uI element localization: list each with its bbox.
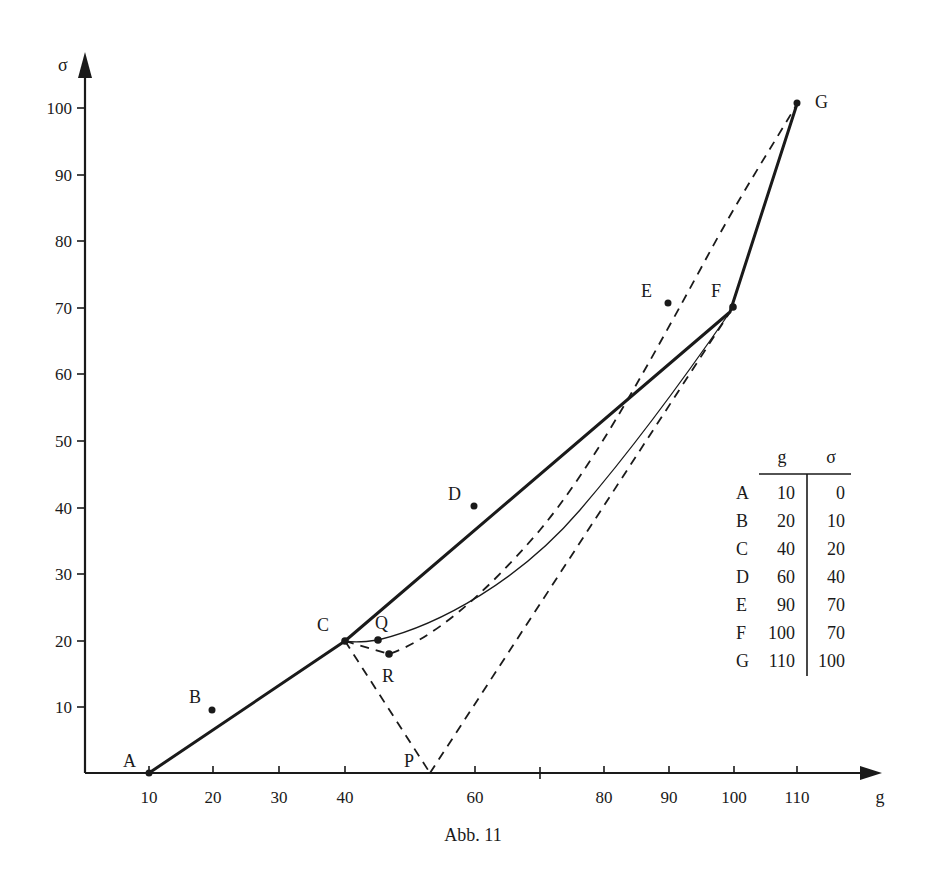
table-row-e: E 90 70 <box>736 595 845 615</box>
table-cell-sigma: 70 <box>827 623 845 643</box>
table-cell-name: F <box>736 623 746 643</box>
table-row-g: G 110 100 <box>736 651 845 671</box>
x-tick-label: 110 <box>785 788 810 807</box>
line-p-f <box>430 312 730 773</box>
x-axis-label: g <box>876 787 885 807</box>
point-e <box>665 300 672 307</box>
table-row-a: A 10 0 <box>736 483 845 503</box>
x-tick-label: 20 <box>205 788 222 807</box>
line-c-p <box>345 641 430 773</box>
x-tick-labels: 10 20 30 40 60 80 90 100 110 <box>141 788 810 807</box>
data-points <box>146 100 801 777</box>
x-tick-label: 60 <box>467 788 484 807</box>
point-f <box>729 303 737 311</box>
figure-caption: Abb. 11 <box>444 825 501 845</box>
label-p: P <box>404 751 414 771</box>
label-a: A <box>123 751 136 771</box>
table-header-g: g <box>778 447 787 467</box>
hull-line <box>149 104 797 773</box>
table-cell-sigma: 70 <box>827 595 845 615</box>
table-cell-name: D <box>736 567 749 587</box>
x-tick-label: 80 <box>596 788 613 807</box>
dashed-lines <box>345 104 797 773</box>
table-cell-sigma: 0 <box>836 483 845 503</box>
y-tick-label: 40 <box>55 499 72 518</box>
point-d <box>471 503 478 510</box>
label-g: G <box>815 92 828 112</box>
y-tick-labels: 10 20 30 40 50 60 70 80 90 100 <box>47 99 73 717</box>
y-tick-label: 80 <box>55 232 72 251</box>
x-tick-label: 40 <box>337 788 354 807</box>
table-cell-sigma: 20 <box>827 539 845 559</box>
label-d: D <box>448 484 461 504</box>
point-q <box>374 636 382 644</box>
label-b: B <box>189 687 201 707</box>
x-tick-label: 30 <box>271 788 288 807</box>
y-tick-label: 30 <box>55 565 72 584</box>
table-cell-name: E <box>736 595 747 615</box>
table-row-f: F 100 70 <box>736 623 845 643</box>
table-cell-g: 20 <box>777 511 795 531</box>
table-cell-name: C <box>736 539 748 559</box>
table-cell-g: 90 <box>777 595 795 615</box>
curve-c-r-g <box>345 104 797 654</box>
table-cell-g: 110 <box>769 651 795 671</box>
point-labels: A B C D E F G Q R P <box>123 92 828 771</box>
label-r: R <box>382 666 394 686</box>
y-tick-label: 100 <box>47 99 73 118</box>
point-r <box>385 650 393 658</box>
table-cell-g: 10 <box>777 483 795 503</box>
axes <box>85 70 870 773</box>
table-cell-sigma: 10 <box>827 511 845 531</box>
y-tick-label: 90 <box>55 166 72 185</box>
y-tick-label: 10 <box>55 698 72 717</box>
table-row-c: C 40 20 <box>736 539 845 559</box>
table-cell-g: 100 <box>768 623 795 643</box>
label-c: C <box>317 615 329 635</box>
label-q: Q <box>375 613 388 633</box>
value-table: g σ A 10 0 B 20 10 C 40 20 D 60 40 E 90 … <box>736 447 851 676</box>
point-g <box>794 100 801 107</box>
label-e: E <box>641 281 652 301</box>
x-tick-label: 10 <box>141 788 158 807</box>
table-cell-sigma: 40 <box>827 567 845 587</box>
label-f: F <box>711 281 721 301</box>
y-ticks <box>77 108 85 707</box>
table-cell-g: 40 <box>777 539 795 559</box>
table-cell-name: A <box>736 483 749 503</box>
table-cell-name: B <box>736 511 748 531</box>
y-tick-label: 50 <box>55 432 72 451</box>
x-tick-label: 90 <box>661 788 678 807</box>
y-tick-label: 70 <box>55 299 72 318</box>
y-axis-label: σ <box>58 55 68 75</box>
point-c <box>341 637 349 645</box>
y-tick-label: 60 <box>55 365 72 384</box>
point-b <box>209 707 216 714</box>
table-header-sigma: σ <box>826 447 836 467</box>
point-a <box>146 770 153 777</box>
y-axis-arrow-icon <box>78 52 92 78</box>
table-row-b: B 20 10 <box>736 511 845 531</box>
table-row-d: D 60 40 <box>736 567 845 587</box>
chart-canvas: 10 20 30 40 50 60 70 80 90 100 σ 10 20 3… <box>0 0 938 881</box>
table-cell-g: 60 <box>777 567 795 587</box>
table-cell-name: G <box>736 651 749 671</box>
x-tick-label: 100 <box>721 788 747 807</box>
y-tick-label: 20 <box>55 632 72 651</box>
table-cell-sigma: 100 <box>818 651 845 671</box>
x-axis-arrow-icon <box>860 766 882 780</box>
